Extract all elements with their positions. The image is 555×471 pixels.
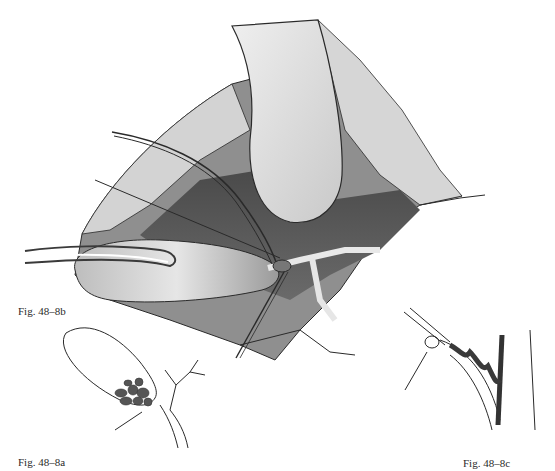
- figure-label-48-8c: Fig. 48–8c: [463, 457, 510, 469]
- cystic-duct-clamp: [273, 260, 291, 272]
- probe-tip: [404, 308, 450, 345]
- hepatic-ducts: [165, 360, 205, 410]
- gallstones: [115, 378, 152, 406]
- inset-figure-48-8a: [63, 328, 205, 448]
- inset-instrument: [115, 412, 142, 430]
- spiral-valve: [450, 345, 500, 382]
- inset-figure-48-8c: [404, 308, 535, 430]
- figure-label-48-8b: Fig. 48–8b: [18, 305, 66, 317]
- figure-label-48-8a: Fig. 48–8a: [18, 456, 65, 468]
- main-figure-48-8b: [25, 20, 485, 360]
- surgical-illustration: [0, 0, 555, 471]
- common-bile-duct: [160, 405, 188, 448]
